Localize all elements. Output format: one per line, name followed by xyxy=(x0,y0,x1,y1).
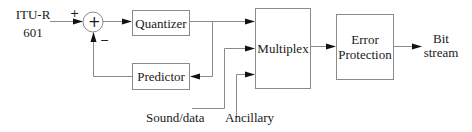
sound-data-label: Sound/data xyxy=(146,111,205,125)
error-protection-block: Error Protection xyxy=(336,14,394,80)
input-label-line2: 601 xyxy=(12,26,54,40)
quantizer-label: Quantizer xyxy=(135,16,186,31)
video-encoder-block-diagram: ITU-R 601 + − + Quantizer Predictor Mult… xyxy=(0,0,472,132)
error-protection-label-line2: Protection xyxy=(338,47,391,62)
summing-junction-symbol: + xyxy=(88,15,101,30)
plus-sign: + xyxy=(70,8,79,19)
error-protection-label-line1: Error xyxy=(351,32,378,47)
branch-to-predictor-arrow xyxy=(191,22,213,77)
predictor-block: Predictor xyxy=(132,63,190,90)
minus-sign: − xyxy=(100,35,109,46)
predictor-label: Predictor xyxy=(137,69,185,84)
output-label-line1: Bit xyxy=(422,32,460,46)
input-label-line1: ITU-R xyxy=(12,8,54,22)
sound-data-arrow xyxy=(192,49,254,109)
ancillary-label: Ancillary xyxy=(225,111,274,125)
multiplex-block: Multiplex xyxy=(255,8,311,89)
multiplex-label: Multiplex xyxy=(257,41,308,56)
output-label: Bit stream xyxy=(422,32,460,60)
input-label: ITU-R 601 xyxy=(12,8,54,40)
quantizer-block: Quantizer xyxy=(132,10,190,36)
output-label-line2: stream xyxy=(422,46,460,60)
